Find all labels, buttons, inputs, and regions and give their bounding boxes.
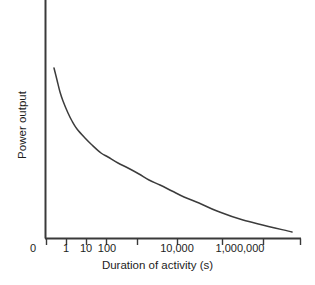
x-tick-label-10: 10: [80, 242, 92, 255]
power-output-curve: [54, 68, 292, 232]
chart-figure: 0 1 10 100 10,000 1,000,000 Duration of …: [0, 0, 315, 285]
chart-plot-area: [0, 0, 315, 285]
x-tick-label-origin: 0: [30, 242, 36, 255]
y-axis-title-wrap: Power output: [10, 60, 34, 190]
x-tick-label-10000: 10,000: [160, 242, 194, 255]
x-axis-title: Duration of activity (s): [0, 259, 315, 271]
y-axis-title: Power output: [16, 91, 28, 159]
x-tick-label-100: 100: [98, 242, 116, 255]
x-tick-label-1000000: 1,000,000: [216, 242, 265, 255]
x-tick-label-1: 1: [63, 242, 69, 255]
